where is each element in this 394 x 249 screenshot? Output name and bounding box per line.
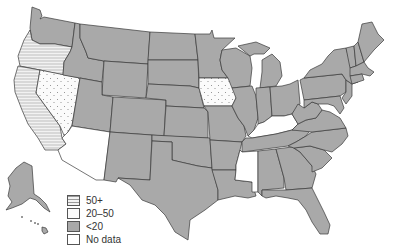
legend-label: <20 <box>86 221 103 232</box>
state-kansas <box>164 106 208 138</box>
state-north-dakota <box>148 32 198 60</box>
state-south-dakota <box>148 60 199 88</box>
legend-label: 20–50 <box>86 208 114 219</box>
legend-item-no-data: No data <box>67 233 121 246</box>
legend-item-under20: <20 <box>67 220 121 233</box>
state-arizona <box>58 126 110 180</box>
state-hawaii <box>21 216 48 234</box>
swatch-horizontal-lines <box>67 195 80 206</box>
state-new-mexico <box>104 132 152 182</box>
swatch-dots <box>67 208 80 219</box>
state-montana <box>80 24 150 64</box>
legend-label: No data <box>86 234 121 245</box>
swatch-white <box>67 234 80 245</box>
legend-item-20-50: 20–50 <box>67 207 121 220</box>
state-florida <box>262 188 330 234</box>
state-wyoming <box>102 61 148 98</box>
us-choropleth-map <box>0 0 394 249</box>
state-maine <box>358 22 384 62</box>
state-connecticut <box>350 74 364 84</box>
legend-item-50plus: 50+ <box>67 194 121 207</box>
state-colorado <box>110 97 166 136</box>
legend-label: 50+ <box>86 195 103 206</box>
state-alaska <box>6 162 50 212</box>
state-washington <box>30 7 75 47</box>
swatch-solid-gray <box>67 221 80 232</box>
legend: 50+ 20–50 <20 No data <box>67 194 121 246</box>
